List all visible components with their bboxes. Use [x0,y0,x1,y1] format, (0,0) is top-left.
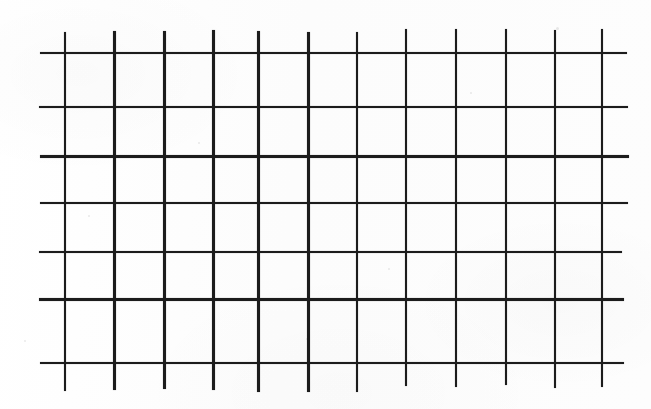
grid-line-horizontal [40,362,624,365]
scan-speck [24,340,26,342]
scan-speck [556,27,559,30]
figure-canvas [0,0,651,409]
grid-line-horizontal [39,106,627,108]
grid-line-vertical [405,29,407,386]
grid-line-vertical [257,31,260,391]
grid-line-vertical [505,29,507,385]
grid-line-vertical [455,29,457,387]
grid-line-vertical [212,30,215,390]
grid-line-horizontal [39,298,624,301]
scan-speck [388,268,390,270]
scan-speck [88,215,90,217]
grid-line-group [0,0,651,409]
scan-speck [306,338,308,340]
grid-line-horizontal [40,155,629,157]
grid-line-vertical [601,29,603,387]
grid-line-horizontal [40,202,627,204]
scan-speck [198,142,200,144]
scan-speck [470,92,472,94]
grid-line-vertical [356,32,358,392]
grid-line-horizontal [40,52,626,54]
grid-line-vertical [113,31,116,391]
grid-line-vertical [163,31,166,389]
grid-line-vertical [554,30,556,388]
grid-line-vertical [64,32,67,391]
grid-line-horizontal [39,251,622,254]
